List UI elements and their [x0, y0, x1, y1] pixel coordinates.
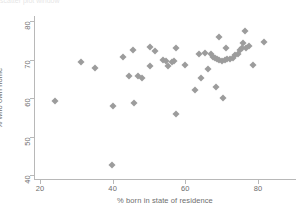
- scatter-point: [147, 62, 154, 69]
- y-axis-tick-label: 70: [24, 60, 33, 69]
- scatter-point: [129, 47, 136, 54]
- scatter-point: [139, 74, 146, 81]
- scatter-point: [182, 61, 189, 68]
- scatter-point: [151, 47, 158, 54]
- x-axis-tick-label: 20: [36, 184, 45, 193]
- x-axis-tick-label: 80: [254, 184, 263, 193]
- y-axis-tick-label: 80: [24, 21, 33, 30]
- scatter-point: [212, 84, 219, 91]
- scatter-point: [131, 100, 138, 107]
- scatter-point: [108, 162, 115, 169]
- scatter-point: [172, 111, 179, 118]
- y-axis-tick-label: 50: [24, 137, 33, 146]
- plot-area: [34, 16, 296, 179]
- scatter-point: [260, 39, 267, 46]
- scatter-point: [241, 27, 248, 34]
- scatter-point: [78, 58, 85, 65]
- x-axis-tick-label: 60: [181, 184, 190, 193]
- scatter-point: [223, 45, 230, 52]
- scatter-point: [191, 86, 198, 93]
- scatter-point: [110, 102, 117, 109]
- x-axis-line: [34, 179, 296, 180]
- scatter-point: [198, 74, 205, 81]
- scatter-point: [172, 44, 179, 51]
- scatter-point: [51, 97, 58, 104]
- scatter-point: [216, 34, 223, 41]
- scatter-point: [125, 73, 132, 80]
- scatter-plot-figure: scatter plot window % who own home % bor…: [0, 0, 302, 213]
- artifact-label: scatter plot window: [0, 0, 60, 4]
- scatter-point: [205, 65, 212, 72]
- scatter-point: [119, 54, 126, 61]
- scatter-point: [220, 94, 227, 101]
- y-axis-tick-label: 60: [24, 98, 33, 107]
- x-axis-tick-label: 40: [108, 184, 117, 193]
- cropped-window-artifact: scatter plot window: [0, 0, 302, 7]
- x-axis-title: % born in state of residence: [117, 196, 213, 205]
- scatter-point: [92, 65, 99, 72]
- y-axis-tick-label: 40: [24, 175, 33, 184]
- y-axis-title: % who own home: [0, 68, 4, 129]
- scatter-point: [249, 61, 256, 68]
